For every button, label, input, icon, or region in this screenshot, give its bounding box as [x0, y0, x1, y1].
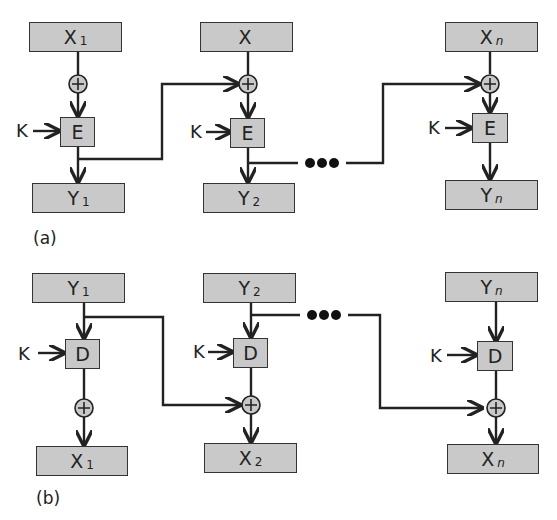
block-label: Y [67, 187, 79, 209]
plaintext-block-xn: Xn [445, 22, 538, 52]
key-label: K [193, 341, 205, 362]
block-label: X [480, 26, 493, 48]
block-subscript: n [496, 34, 504, 48]
block-label: X [481, 448, 494, 470]
plaintext-block-x1: X1 [36, 446, 128, 476]
plaintext-block-x1: X1 [29, 22, 122, 52]
decrypt-block-1: D [65, 339, 100, 369]
ciphertext-block-y2: Y2 [203, 273, 296, 303]
block-subscript: n [495, 284, 503, 298]
plaintext-block-x2: X2 [204, 443, 297, 473]
encrypt-block-n: E [472, 113, 508, 143]
plaintext-block-xn: Xn [447, 444, 539, 474]
key-label: K [190, 121, 202, 142]
ciphertext-block-y1: Y1 [32, 273, 125, 303]
block-label: Y [480, 276, 492, 298]
decrypt-label: D [243, 342, 258, 364]
ciphertext-block-yn: Yn [445, 272, 538, 302]
key-label: K [430, 345, 442, 366]
xor-icon [239, 75, 257, 93]
ciphertext-block-y1: Y1 [32, 183, 125, 213]
block-label: Y [67, 277, 79, 299]
key-label: K [18, 343, 30, 364]
xor-icon [69, 75, 87, 93]
block-label: Y [480, 184, 492, 206]
encrypt-label: E [241, 122, 253, 144]
cbc-mode-diagram: X1 X Xn E E E K K K Y1 Y2 Yn (a) Y1 Y2 Y… [0, 0, 557, 520]
block-subscript: 1 [82, 285, 90, 299]
block-label: Y [238, 187, 250, 209]
ciphertext-block-yn: Yn [445, 180, 538, 210]
ellipsis-dots-b [307, 310, 341, 320]
xor-icon [481, 75, 499, 93]
plaintext-block-x2: X [200, 22, 293, 52]
block-subscript: 2 [252, 195, 260, 209]
decrypt-label: D [488, 345, 503, 367]
key-label: K [428, 117, 440, 138]
block-subscript: 1 [82, 195, 90, 209]
encrypt-block-2: E [230, 118, 265, 148]
block-subscript: n [495, 192, 503, 206]
caption-a: (a) [33, 228, 57, 248]
key-label: K [16, 120, 28, 141]
encrypt-label: E [71, 121, 83, 143]
block-subscript: 1 [80, 34, 88, 48]
block-label: X [64, 26, 77, 48]
connector-lines [0, 0, 557, 520]
block-label: X [238, 26, 251, 48]
caption-b: (b) [36, 488, 60, 508]
ciphertext-block-y2: Y2 [203, 183, 295, 213]
block-label: X [239, 447, 252, 469]
encrypt-block-1: E [60, 117, 95, 147]
decrypt-label: D [75, 343, 90, 365]
decrypt-block-n: D [477, 341, 513, 371]
encrypt-label: E [484, 117, 496, 139]
block-label: X [70, 450, 83, 472]
block-subscript: 1 [86, 458, 94, 472]
xor-icon [487, 399, 505, 417]
xor-icon [75, 399, 93, 417]
block-subscript: n [497, 456, 505, 470]
xor-icon [242, 396, 260, 414]
block-label: Y [238, 277, 250, 299]
block-subscript: 2 [255, 455, 263, 469]
ellipsis-dots-a [305, 158, 339, 168]
decrypt-block-2: D [233, 338, 268, 368]
block-subscript: 2 [253, 285, 261, 299]
